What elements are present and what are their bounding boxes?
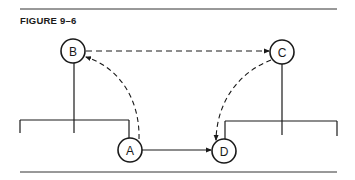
node-c: C (270, 40, 294, 64)
diagram-canvas: B C A D (0, 0, 355, 180)
edge-a-to-b (86, 57, 139, 139)
edge-c-to-d (216, 60, 271, 140)
node-a-label: A (126, 144, 134, 158)
node-a: A (118, 138, 142, 162)
node-c-label: C (278, 46, 287, 60)
node-d-label: D (220, 145, 229, 159)
right-bracket (225, 64, 337, 139)
node-d: D (212, 139, 236, 163)
node-b: B (61, 39, 85, 63)
node-b-label: B (69, 45, 77, 59)
left-bracket (20, 63, 129, 138)
